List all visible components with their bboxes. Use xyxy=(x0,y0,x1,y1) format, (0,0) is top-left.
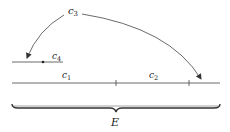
arrow-c3-to-c2-end xyxy=(82,14,201,79)
diagram-canvas: c3 c4 c1 c2 E xyxy=(0,0,230,132)
label-E: E xyxy=(110,116,119,129)
point-c4 xyxy=(42,61,45,64)
label-c4: c4 xyxy=(52,51,61,63)
label-c3: c3 xyxy=(68,5,78,18)
arrow-c3-to-c4-line xyxy=(27,15,64,58)
label-c1: c1 xyxy=(62,70,71,82)
label-c2: c2 xyxy=(149,70,158,82)
brace-under-segment xyxy=(12,104,220,112)
